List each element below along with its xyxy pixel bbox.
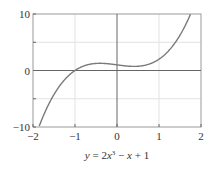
x-tick-label: 0 [114, 130, 120, 142]
y-tick-label: 0 [25, 65, 31, 77]
cubic-function-chart: −2−1012 −10010 y = 2x3 − x + 1 [0, 0, 212, 169]
chart-caption: y = 2x3 − x + 1 [84, 149, 149, 161]
x-tick-label: 2 [198, 130, 204, 142]
y-tick-label: 10 [19, 8, 31, 20]
x-tick-label: 1 [156, 130, 162, 142]
x-tick-label: −1 [69, 130, 81, 142]
zero-axes [33, 14, 201, 127]
x-tick-labels: −2−1012 [27, 130, 204, 142]
y-tick-labels: −10010 [13, 8, 31, 133]
y-tick-label: −10 [13, 121, 31, 133]
